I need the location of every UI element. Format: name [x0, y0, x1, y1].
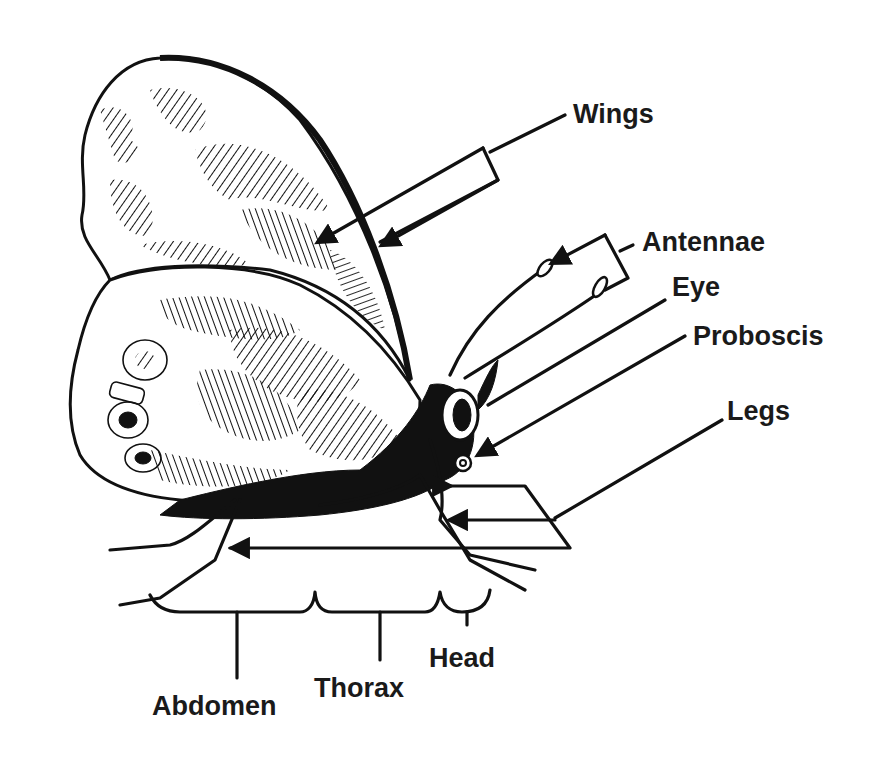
label-legs: Legs	[727, 398, 790, 425]
label-abdomen: Abdomen	[152, 693, 277, 720]
label-thorax: Thorax	[314, 675, 404, 702]
label-antennae: Antennae	[642, 229, 765, 256]
label-wings: Wings	[573, 101, 654, 128]
label-eye: Eye	[672, 274, 720, 301]
label-head: Head	[429, 645, 495, 672]
label-proboscis: Proboscis	[693, 323, 824, 350]
